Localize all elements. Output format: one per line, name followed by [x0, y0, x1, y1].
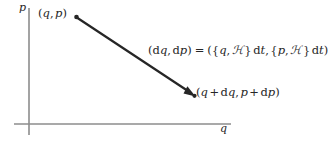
start-q-symbol: q [43, 6, 50, 20]
diagram-canvas [0, 0, 329, 142]
comma: , [167, 43, 171, 57]
differential-d: d [172, 43, 179, 57]
end-q-symbol: q [201, 85, 208, 99]
hamiltonian-symbol: ℋ [290, 43, 301, 57]
end-point-label: (q+dq,p+dp) [196, 87, 280, 99]
start-point-dot [74, 15, 79, 20]
differential-d: d [221, 85, 228, 99]
start-point-label: (q,p) [38, 8, 67, 20]
hamiltonian-symbol: ℋ [232, 43, 243, 57]
comma: , [235, 85, 239, 99]
bracket-p-symbol: p [278, 43, 285, 57]
paren-close: ) [275, 85, 280, 99]
p-axis-label-text: p [19, 1, 26, 14]
end-p-symbol: p [240, 85, 247, 99]
differential-d: d [153, 43, 160, 57]
comma: , [265, 43, 269, 57]
differential-d: d [312, 43, 319, 57]
bracket-q-symbol: q [219, 43, 226, 57]
q-axis-label-text: q [220, 122, 227, 135]
comma: , [227, 43, 231, 57]
phase-space-diagram: p q (q,p) (q+dq,p+dp) (dq,dp)=({q,ℋ}dt,{… [0, 0, 329, 142]
differential-d: d [260, 85, 267, 99]
rhs-paren-close: ) [324, 43, 329, 57]
q-axis-label: q [220, 123, 227, 134]
plus-operator: + [209, 85, 219, 99]
brace-open: { [270, 43, 277, 57]
comma: , [285, 43, 289, 57]
brace-close: } [303, 43, 310, 57]
brace-close: } [244, 43, 251, 57]
axes-group [14, 8, 231, 135]
paren-close: ) [62, 6, 67, 20]
plus-operator: + [249, 85, 259, 99]
comma: , [50, 6, 54, 20]
lhs-paren-close: ) [187, 43, 192, 57]
displacement-formula-label: (dq,dp)=({q,ℋ}dt,{p,ℋ}dt) [148, 45, 328, 57]
equals-operator: = [195, 43, 205, 57]
p-axis-label: p [19, 2, 26, 13]
differential-d: d [253, 43, 260, 57]
